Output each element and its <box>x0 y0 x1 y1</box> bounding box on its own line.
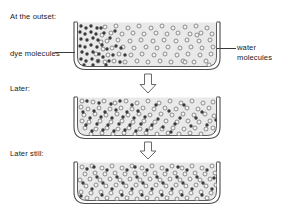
callout-water-line-2: molecules <box>237 53 272 62</box>
arrow-1-graphic <box>138 73 158 94</box>
callout-label-water-molecules: watermolecules <box>237 43 272 62</box>
arrow-later-to-later-still <box>138 141 158 160</box>
callout-water-line-1: water <box>237 43 256 52</box>
vessel-later <box>72 96 222 140</box>
stage-label-later-still: Later still: <box>10 149 44 159</box>
stage-label-at-the-outset: At the outset: <box>10 12 56 22</box>
vessel-later-still <box>72 161 222 205</box>
arrow-2-shape <box>140 142 156 159</box>
diagram-canvas: At the outset: dye molecules watermolecu… <box>0 0 294 219</box>
callout-label-dye-molecules: dye molecules <box>10 49 60 59</box>
arrow-2-graphic <box>138 141 158 160</box>
vessel-at-the-outset <box>72 21 222 71</box>
vessel-3-graphic <box>72 161 222 205</box>
vessel-1-graphic <box>72 21 222 71</box>
stage-label-later: Later: <box>10 84 30 94</box>
arrow-outset-to-later <box>138 73 158 94</box>
vessel-2-graphic <box>72 96 222 140</box>
arrow-1-shape <box>140 74 156 93</box>
